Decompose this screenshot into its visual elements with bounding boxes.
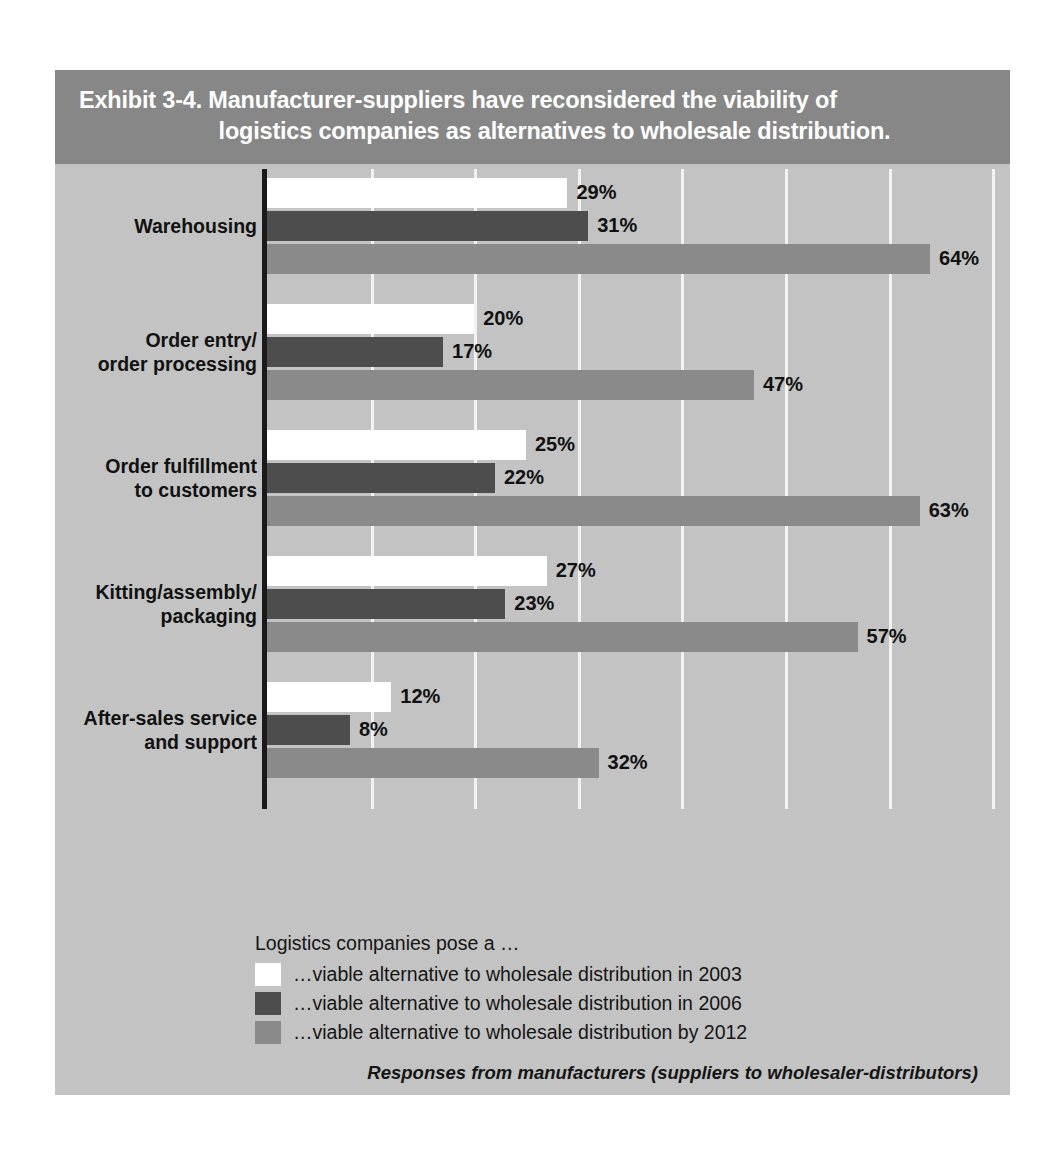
category-label-3: Order fulfillmentto customers (55, 454, 257, 502)
bar-2012-5 (267, 748, 599, 778)
category-label-line: Order fulfillment (55, 454, 257, 478)
legend-swatch-icon (255, 1021, 281, 1044)
bar-row: 12% (267, 682, 1010, 712)
category-label-line: Order entry/ (55, 328, 257, 352)
bar-2003-2 (267, 304, 474, 334)
bar-value-label: 31% (597, 214, 637, 237)
category-label-line: Warehousing (55, 214, 257, 238)
bar-row: 29% (267, 178, 1010, 208)
bar-value-label: 12% (400, 685, 440, 708)
bar-2006-3 (267, 463, 495, 493)
bar-2012-4 (267, 622, 858, 652)
bar-value-label: 23% (514, 592, 554, 615)
bar-2006-2 (267, 337, 443, 367)
bar-row: 32% (267, 748, 1010, 778)
bar-2012-1 (267, 244, 930, 274)
legend-swatch-icon (255, 992, 281, 1015)
bar-2006-5 (267, 715, 350, 745)
bar-2003-5 (267, 682, 391, 712)
bar-row: 20% (267, 304, 1010, 334)
bar-group: 20%17%47% (267, 304, 1010, 403)
bar-row: 23% (267, 589, 1010, 619)
bar-2012-3 (267, 496, 920, 526)
bar-2006-1 (267, 211, 588, 241)
exhibit-title: Exhibit 3-4. Manufacturer-suppliers have… (73, 85, 996, 147)
bar-row: 47% (267, 370, 1010, 400)
legend-item-label: …viable alternative to wholesale distrib… (293, 1021, 747, 1044)
category-label-line: order processing (55, 352, 257, 376)
category-axis-labels: WarehousingOrder entry/order processingO… (55, 164, 257, 924)
bar-group: 29%31%64% (267, 178, 1010, 277)
bar-value-label: 57% (867, 625, 907, 648)
category-label-line: and support (55, 730, 257, 754)
legend-swatch-icon (255, 963, 281, 986)
category-label-line: to customers (55, 478, 257, 502)
bar-value-label: 8% (359, 718, 388, 741)
bar-group: 25%22%63% (267, 430, 1010, 529)
exhibit-title-line-2: logistics companies as alternatives to w… (73, 116, 996, 147)
bar-row: 64% (267, 244, 1010, 274)
bar-value-label: 27% (556, 559, 596, 582)
category-label-1: Warehousing (55, 214, 257, 238)
bar-row: 25% (267, 430, 1010, 460)
bar-value-label: 32% (608, 751, 648, 774)
category-label-line: Kitting/assembly/ (55, 580, 257, 604)
bar-value-label: 64% (939, 247, 979, 270)
bar-value-label: 17% (452, 340, 492, 363)
legend-item-3: …viable alternative to wholesale distrib… (255, 1018, 975, 1047)
category-label-line: packaging (55, 604, 257, 628)
bar-row: 8% (267, 715, 1010, 745)
legend-items: …viable alternative to wholesale distrib… (255, 960, 975, 1047)
chart-footnote: Responses from manufacturers (suppliers … (55, 1062, 978, 1084)
legend-item-2: …viable alternative to wholesale distrib… (255, 989, 975, 1018)
legend-title: Logistics companies pose a … (255, 932, 975, 955)
bar-row: 31% (267, 211, 1010, 241)
bar-value-label: 47% (763, 373, 803, 396)
bar-2003-3 (267, 430, 526, 460)
chart-legend: Logistics companies pose a … …viable alt… (255, 932, 975, 1047)
exhibit-panel: Exhibit 3-4. Manufacturer-suppliers have… (55, 70, 1010, 1095)
bar-value-label: 20% (483, 307, 523, 330)
bar-row: 63% (267, 496, 1010, 526)
bar-2006-4 (267, 589, 505, 619)
bar-2012-2 (267, 370, 754, 400)
chart-axis-region: 29%31%64%20%17%47%25%22%63%27%23%57%12%8… (262, 164, 1010, 924)
bar-value-label: 29% (576, 181, 616, 204)
bar-2003-1 (267, 178, 567, 208)
bar-value-label: 63% (929, 499, 969, 522)
exhibit-title-band: Exhibit 3-4. Manufacturer-suppliers have… (55, 70, 1010, 164)
bar-row: 22% (267, 463, 1010, 493)
bar-row: 57% (267, 622, 1010, 652)
chart-plot-area: WarehousingOrder entry/order processingO… (55, 164, 1010, 924)
category-label-5: After-sales serviceand support (55, 706, 257, 754)
category-label-4: Kitting/assembly/packaging (55, 580, 257, 628)
bar-value-label: 25% (535, 433, 575, 456)
legend-item-label: …viable alternative to wholesale distrib… (293, 963, 742, 986)
category-label-2: Order entry/order processing (55, 328, 257, 376)
bar-2003-4 (267, 556, 547, 586)
bar-row: 27% (267, 556, 1010, 586)
bar-group: 27%23%57% (267, 556, 1010, 655)
category-label-line: After-sales service (55, 706, 257, 730)
legend-item-1: …viable alternative to wholesale distrib… (255, 960, 975, 989)
bar-group: 12%8%32% (267, 682, 1010, 781)
exhibit-title-line-1: Exhibit 3-4. Manufacturer-suppliers have… (73, 85, 996, 116)
bar-row: 17% (267, 337, 1010, 367)
legend-item-label: …viable alternative to wholesale distrib… (293, 992, 742, 1015)
bar-value-label: 22% (504, 466, 544, 489)
